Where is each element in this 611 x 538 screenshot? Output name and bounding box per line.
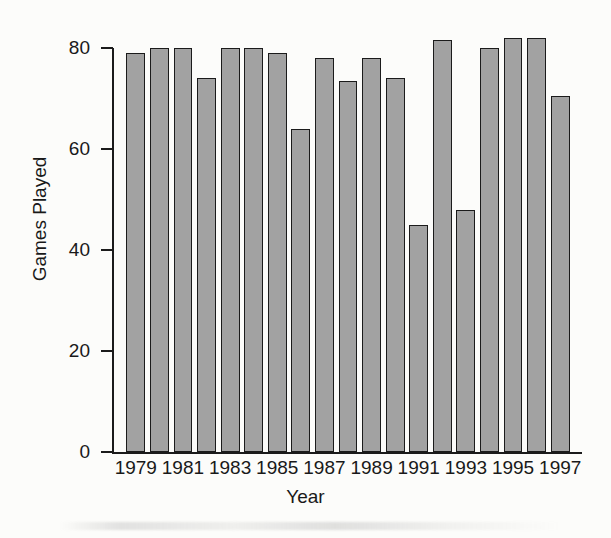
bar bbox=[339, 81, 358, 452]
y-tick-label: 80 bbox=[30, 38, 90, 57]
bar bbox=[197, 78, 216, 452]
plot-area bbox=[124, 38, 572, 452]
bar bbox=[362, 58, 381, 452]
bar bbox=[527, 38, 546, 452]
x-tick-label: 1997 bbox=[530, 458, 590, 477]
y-tick-label: 0 bbox=[30, 442, 90, 461]
bar bbox=[551, 96, 570, 452]
y-tick-mark bbox=[101, 148, 113, 150]
bar bbox=[315, 58, 334, 452]
bar bbox=[456, 210, 475, 452]
y-tick-label: 20 bbox=[30, 341, 90, 360]
y-tick-mark bbox=[101, 249, 113, 251]
scan-artifact bbox=[60, 522, 560, 530]
x-axis-line bbox=[112, 452, 582, 454]
bar bbox=[268, 53, 287, 452]
bar bbox=[291, 129, 310, 452]
y-tick-mark bbox=[101, 47, 113, 49]
y-axis-line bbox=[112, 48, 114, 454]
x-axis-title: Year bbox=[0, 486, 611, 508]
bar bbox=[433, 40, 452, 452]
bar bbox=[174, 48, 193, 452]
y-tick-mark bbox=[101, 350, 113, 352]
bar bbox=[504, 38, 523, 452]
bar bbox=[244, 48, 263, 452]
y-axis-title: Games Played bbox=[29, 119, 51, 319]
bar bbox=[150, 48, 169, 452]
bar-chart-figure: 020406080 197919811983198519871989199119… bbox=[0, 0, 611, 538]
bar bbox=[221, 48, 240, 452]
bar bbox=[480, 48, 499, 452]
bar bbox=[409, 225, 428, 452]
y-tick-mark bbox=[101, 451, 113, 453]
bar bbox=[386, 78, 405, 452]
bar bbox=[126, 53, 145, 452]
